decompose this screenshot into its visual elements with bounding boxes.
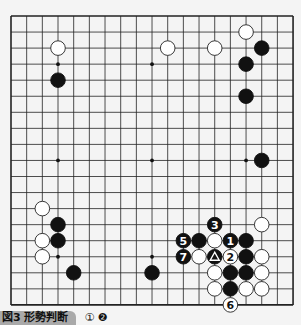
black-stone xyxy=(254,153,269,168)
caption-moves: ① ❷ xyxy=(84,311,107,325)
black-stone xyxy=(51,73,66,88)
star-point xyxy=(150,62,154,66)
move-number: 2 xyxy=(227,251,235,264)
black-stone xyxy=(145,266,160,281)
star-point xyxy=(244,159,248,163)
white-stone: 2 xyxy=(223,249,238,264)
black-stone: 5 xyxy=(176,233,191,248)
star-point xyxy=(56,62,60,66)
white-stone xyxy=(207,41,222,56)
black-stone xyxy=(239,266,254,281)
white-stone xyxy=(254,249,269,264)
white-stone xyxy=(207,233,222,248)
white-stone xyxy=(207,282,222,297)
white-stone xyxy=(254,217,269,232)
white-stone: 6 xyxy=(223,298,238,313)
move-number: 6 xyxy=(227,299,235,312)
black-stone xyxy=(254,41,269,56)
black-stone: 1 xyxy=(223,233,238,248)
black-stone xyxy=(207,249,222,264)
move-number: 1 xyxy=(227,235,235,248)
star-point xyxy=(56,255,60,259)
white-stone xyxy=(254,266,269,281)
white-stone xyxy=(192,249,207,264)
black-stone xyxy=(223,282,238,297)
black-stone xyxy=(239,233,254,248)
black-stone: 7 xyxy=(176,249,191,264)
white-stone xyxy=(160,41,175,56)
star-point xyxy=(150,159,154,163)
black-stone xyxy=(239,89,254,104)
move-number: 7 xyxy=(180,251,188,264)
caption-tag: 図3 形勢判断 xyxy=(0,311,76,325)
black-stone xyxy=(239,57,254,72)
black-stone xyxy=(51,233,66,248)
black-stone xyxy=(66,266,81,281)
white-stone xyxy=(239,25,254,40)
white-stone xyxy=(35,249,50,264)
white-stone xyxy=(207,266,222,281)
move-number: 5 xyxy=(180,235,188,248)
white-stone xyxy=(239,282,254,297)
white-stone xyxy=(35,201,50,216)
black-stone xyxy=(223,266,238,281)
black-stone: 3 xyxy=(207,217,222,232)
black-stone xyxy=(239,249,254,264)
star-point xyxy=(56,159,60,163)
star-point xyxy=(150,255,154,259)
white-stone xyxy=(35,233,50,248)
white-stone xyxy=(51,41,66,56)
move-number: 3 xyxy=(211,219,219,232)
black-stone xyxy=(51,217,66,232)
black-stone xyxy=(192,233,207,248)
figure-caption: 図3 形勢判断 ① ❷ xyxy=(0,311,108,325)
white-stone xyxy=(254,282,269,297)
